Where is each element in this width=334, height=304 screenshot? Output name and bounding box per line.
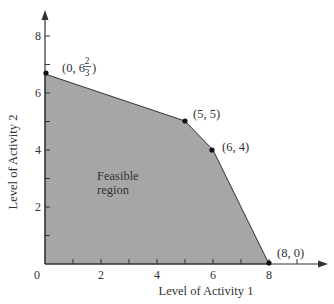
y-axis-title: Level of Activity 2	[6, 115, 20, 210]
vertex-point-8-0	[266, 260, 271, 265]
vertex-point-6-4	[209, 147, 214, 152]
y-tick-label-8: 8	[35, 29, 41, 43]
x-tick-label-8: 8	[266, 268, 272, 282]
y-tick-label-2: 2	[35, 200, 41, 214]
vertex-label-5-5: (5, 5)	[193, 107, 220, 121]
region-label-line1: Feasible	[97, 169, 139, 183]
svg-text:(0, 6: (0, 6	[62, 61, 85, 75]
vertex-label-0-6.67: (0, 6 2 3 )	[62, 56, 96, 78]
svg-text:): )	[92, 61, 96, 75]
svg-text:3: 3	[85, 68, 90, 78]
y-axis-arrow-icon	[42, 10, 49, 20]
feasible-region-chart: 0 2 4 6 8 2 4 6 8 Level of Activity 1 Le…	[0, 0, 334, 304]
feasible-region	[45, 74, 269, 264]
x-tick-label-0: 0	[34, 268, 40, 282]
vertex-point-0-6.67	[43, 70, 48, 75]
x-tick-label-4: 4	[154, 268, 160, 282]
y-tick-label-4: 4	[35, 143, 41, 157]
y-tick-label-6: 6	[35, 86, 41, 100]
vertex-label-6-4: (6, 4)	[222, 140, 249, 154]
x-axis-arrow-icon	[318, 261, 328, 268]
x-axis-title: Level of Activity 1	[159, 284, 254, 298]
svg-text:2: 2	[85, 56, 90, 66]
x-tick-label-6: 6	[210, 268, 216, 282]
vertex-label-8-0: (8, 0)	[277, 246, 304, 260]
vertex-point-5-5	[182, 118, 187, 123]
x-tick-label-2: 2	[98, 268, 104, 282]
region-label-line2: region	[97, 183, 130, 197]
